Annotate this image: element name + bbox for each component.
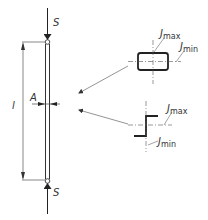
rect-jmax-label: Jmax (158, 28, 181, 41)
bottom-force-label: S (53, 187, 60, 198)
z-jmax-label: Jmax (165, 103, 188, 116)
bottom-hinge-icon (45, 179, 50, 184)
rect-jmin-label: Jmin (178, 41, 198, 54)
axis-point-label: A (29, 92, 37, 103)
z-jmin-label: Jmin (156, 136, 176, 149)
buckling-diagram: S S l A Jmax Jmin (0, 0, 208, 220)
rectangular-section: Jmax Jmin (128, 28, 198, 84)
rect-section-leader (79, 66, 128, 93)
column (45, 40, 50, 184)
z-section: Jmax Jmin (128, 101, 188, 152)
length-dimension: l (12, 42, 45, 180)
top-force-arrow: S (48, 8, 61, 39)
bottom-force-arrow: S (48, 184, 61, 214)
top-force-label: S (53, 17, 60, 28)
axis-point-marker: A (29, 92, 60, 106)
top-hinge-icon (45, 40, 50, 45)
length-label: l (12, 100, 15, 111)
z-section-leader (79, 110, 128, 124)
